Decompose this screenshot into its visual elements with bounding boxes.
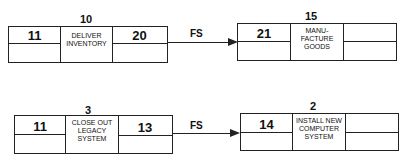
- activity-description: CLOSE OUT LEGACY SYSTEM: [66, 116, 118, 146]
- duration-label: 10: [66, 13, 106, 25]
- divider: [118, 135, 172, 136]
- early-start: 11: [9, 28, 60, 43]
- link-type-label: FS: [190, 120, 203, 131]
- divider: [345, 132, 398, 133]
- activity-description: MANU- FACTURE GOODS: [291, 24, 343, 54]
- dependency-arrow: [173, 133, 231, 134]
- divider: [112, 43, 167, 44]
- duration-label: 15: [291, 10, 331, 22]
- activity-node-install-new-computer-system: 14 INSTALL NEW COMPUTER SYSTEM: [240, 113, 399, 151]
- divider: [9, 43, 60, 44]
- early-finish: 13: [118, 120, 172, 135]
- divider: [343, 24, 344, 60]
- divider: [343, 41, 396, 42]
- divider: [15, 134, 65, 135]
- dependency-arrow: [168, 42, 228, 43]
- early-start: 14: [241, 117, 292, 132]
- link-type-label: FS: [190, 28, 203, 39]
- early-start: 11: [15, 119, 65, 134]
- activity-description: DELIVER INVENTORY: [61, 27, 112, 53]
- activity-node-close-out-legacy-system: 11 CLOSE OUT LEGACY SYSTEM 13: [14, 115, 173, 154]
- duration-label: 2: [293, 100, 333, 112]
- divider: [241, 132, 292, 133]
- early-finish: 20: [112, 28, 167, 43]
- activity-node-deliver-inventory: 11 DELIVER INVENTORY 20: [8, 26, 168, 63]
- activity-description: INSTALL NEW COMPUTER SYSTEM: [293, 114, 345, 144]
- early-start: 21: [238, 26, 290, 41]
- activity-node-manufacture-goods: 21 MANU- FACTURE GOODS: [237, 23, 397, 61]
- arrowhead-icon: [230, 129, 240, 137]
- divider: [238, 41, 290, 42]
